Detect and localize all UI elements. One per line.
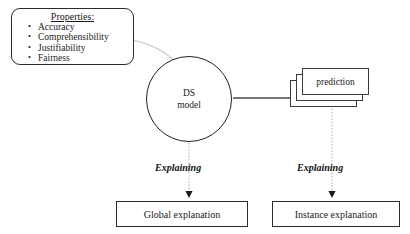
edge-properties-to-model [133,40,176,62]
diagram-canvas: Properties: Accuracy Comprehensibility J… [0,0,410,234]
prediction-label: prediction [316,77,355,87]
properties-heading: Properties: [12,11,133,22]
prediction-card-front: prediction [302,68,369,95]
global-explanation-box: Global explanation [116,201,248,227]
arrowhead-global [185,191,192,198]
property-item-accuracy: Accuracy [12,22,133,32]
ds-model-label-line1: DS [183,87,195,99]
global-explanation-label: Global explanation [144,209,220,220]
property-item-comprehensibility: Comprehensibility [12,32,133,42]
explaining-label-global: Explaining [155,162,201,173]
properties-list: Accuracy Comprehensibility Justifiabilit… [12,22,133,64]
explaining-label-instance: Explaining [297,162,343,173]
ds-model-node: DS model [146,56,232,142]
instance-explanation-box: Instance explanation [272,201,400,227]
ds-model-label-line2: model [177,99,201,111]
property-item-justifiability: Justifiability [12,43,133,53]
property-item-fairness: Fairness [12,53,133,63]
arrowhead-instance [328,191,335,198]
properties-box: Properties: Accuracy Comprehensibility J… [11,8,134,65]
instance-explanation-label: Instance explanation [295,209,377,220]
